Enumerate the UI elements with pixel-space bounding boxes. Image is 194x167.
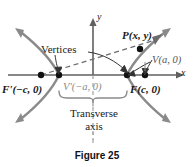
label-axis-word: axis (57, 121, 131, 132)
right-branch-upper-arrow (162, 28, 171, 38)
right-branch-lower-arrow (162, 113, 171, 123)
point-p-marker (137, 46, 143, 52)
y-axis-arrowhead (89, 18, 96, 26)
y-axis-label: y (97, 12, 101, 22)
label-point-p: P(x, y) (122, 30, 152, 41)
leader-lines (55, 52, 152, 76)
label-vertex-right: V(a, 0) (152, 55, 181, 66)
left-branch-upper-arrow (15, 28, 24, 38)
left-branch-lower-arrow (15, 113, 24, 123)
label-focus-right: F(c, 0) (130, 84, 161, 95)
label-vertex-left: V'(−a, 0) (63, 82, 102, 93)
label-vertices: Vertices (41, 44, 76, 55)
point-focus-left (38, 72, 44, 78)
x-axis-label: x (181, 68, 185, 78)
label-transverse-axis: Transverse (57, 108, 131, 119)
figure-caption: Figure 25 (0, 150, 194, 161)
label-focus-left: F'(−c, 0) (2, 84, 42, 95)
hyperbola-figure: F'(−c, 0) F(c, 0) V(a, 0) V'(−a, 0) P(x,… (0, 0, 194, 167)
